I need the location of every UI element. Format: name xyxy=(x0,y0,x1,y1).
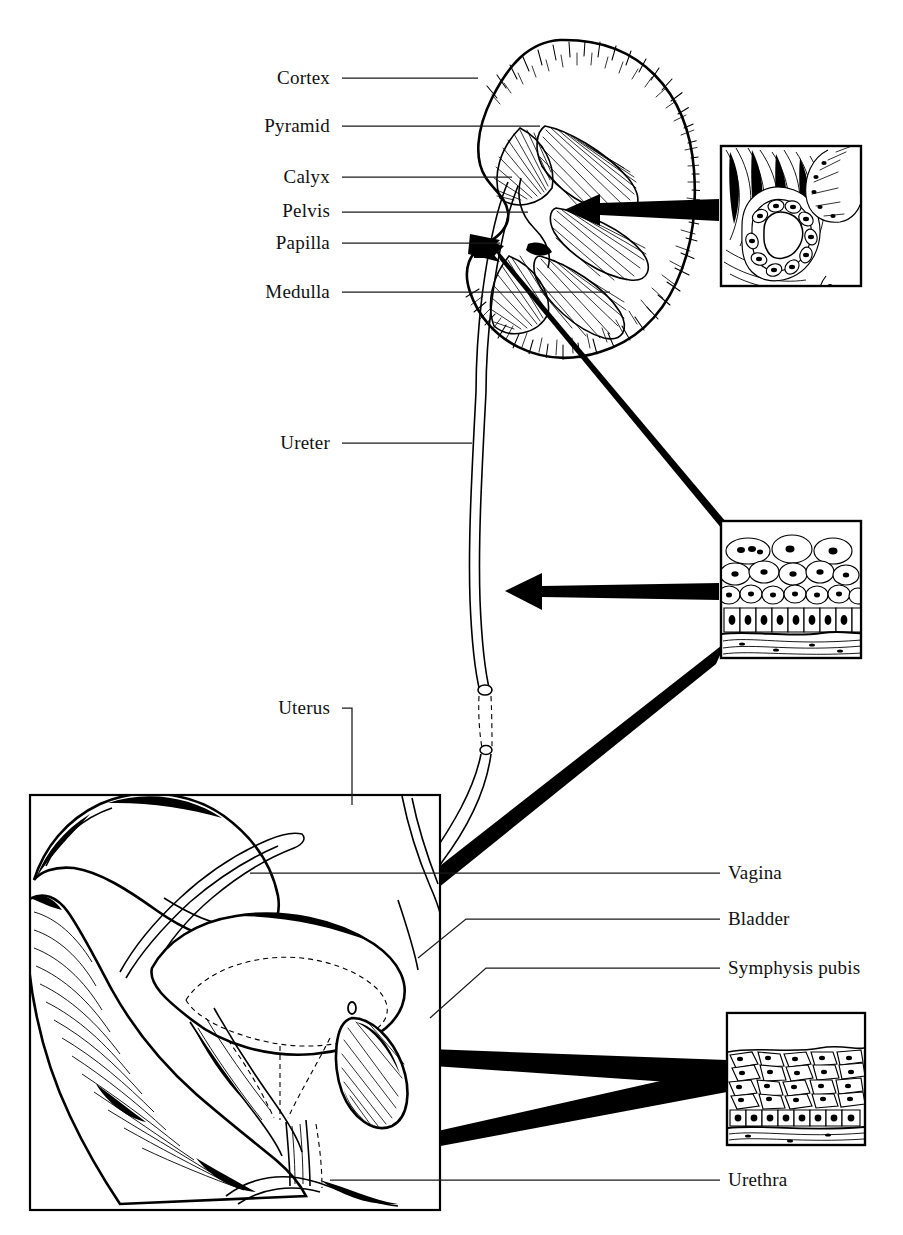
figure-canvas: Cortex Pyramid Calyx Pelvis Papilla Medu… xyxy=(0,0,903,1235)
label-bladder: Bladder xyxy=(728,908,790,929)
label-medulla: Medulla xyxy=(265,281,330,302)
urinary-system-figure: Cortex Pyramid Calyx Pelvis Papilla Medu… xyxy=(0,0,903,1235)
leader-symphysis-pubis xyxy=(430,968,720,1018)
label-pyramid: Pyramid xyxy=(264,115,330,136)
label-urethra: Urethra xyxy=(728,1169,788,1190)
leader-uterus xyxy=(342,708,352,805)
pelvic-sagittal-panel[interactable] xyxy=(28,794,442,1210)
label-calyx: Calyx xyxy=(284,166,331,187)
stratified-epithelium-inset[interactable] xyxy=(727,1013,865,1145)
leader-bladder xyxy=(418,919,720,958)
arrow-to-ureter xyxy=(505,573,719,610)
label-symphysis-pubis: Symphysis pubis xyxy=(728,957,860,978)
label-papilla: Papilla xyxy=(276,232,331,253)
transitional-epithelium-inset[interactable] xyxy=(718,521,867,658)
label-ureter: Ureter xyxy=(280,432,330,453)
label-cortex: Cortex xyxy=(277,67,330,88)
label-pelvis: Pelvis xyxy=(282,200,330,221)
collecting-duct-histology-inset[interactable] xyxy=(721,146,862,327)
label-vagina: Vagina xyxy=(728,862,782,883)
label-uterus: Uterus xyxy=(278,697,330,718)
